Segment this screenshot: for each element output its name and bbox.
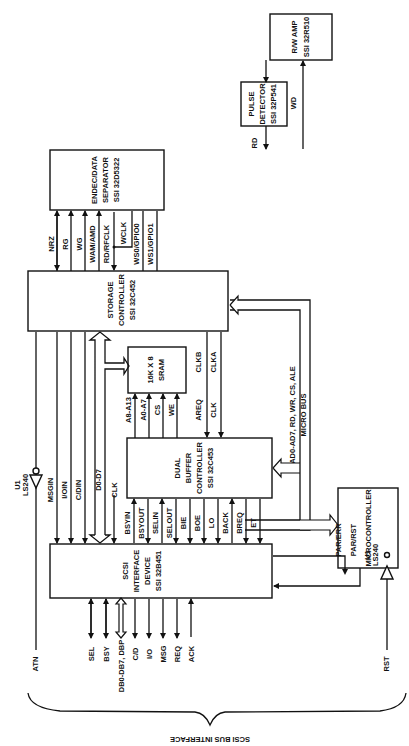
data-bus-arrow	[90, 332, 129, 535]
microbus-label-2: MICRO BUS	[299, 394, 308, 437]
scsi-bus-interface-label: SCSI BUS INTERFACE	[170, 735, 250, 744]
storage-scsi-lines: MSGIN I/OIN C/DIN D0-D7 CLK	[36, 332, 119, 545]
scsi-part: SSI 32B451	[154, 551, 163, 591]
endec-label: ENDEC/DATA	[90, 155, 99, 204]
cd-label: C/D	[131, 647, 140, 661]
ioin-label: I/OIN	[60, 481, 69, 499]
rg-label: RG	[61, 238, 70, 249]
atn-label: ATN	[31, 657, 40, 672]
pulse-label: PULSE	[247, 91, 256, 116]
ls240a-label: LS240	[21, 474, 30, 496]
sram-label: SRAM	[157, 359, 166, 381]
clkb-label: CLKB	[194, 351, 203, 372]
storage-part: SSI 32C452	[128, 280, 137, 320]
back-label: BACK	[221, 512, 230, 534]
areq-label: AREQ	[194, 399, 203, 421]
ls240b-label: LS240	[371, 544, 380, 566]
storage-buffer-lines: CLKB AREQ CLKA CLK	[194, 332, 221, 437]
wclk-label: WCLK	[119, 221, 128, 244]
scsi-bus-brace	[28, 693, 406, 725]
et-label: ET	[249, 518, 258, 528]
pulse-part: SSI 32P541	[269, 84, 278, 124]
a8a13-label: A8-A13	[124, 397, 133, 423]
pulse-detector-block: PULSE DETECTOR SSI 32P541	[241, 82, 287, 126]
clka-label: CLKA	[209, 351, 218, 372]
scsi-block-diagram: R/W AMP SSI 32R510 PULSE DETECTOR SSI 32…	[0, 0, 409, 746]
rdrf-label: RD/RFCLK	[102, 224, 111, 263]
lo-label: LO	[207, 518, 216, 529]
selin-label: SELIN	[151, 512, 160, 534]
msgin-label: MSGIN	[46, 478, 55, 503]
endec-part: SSI 32D5322	[112, 158, 121, 203]
selout-label: SELOUT	[165, 507, 174, 538]
clk2-label: CLK	[209, 402, 218, 418]
ws0-label: WS0/GPIO0	[132, 223, 141, 264]
storage-controller-block: STORAGE CONTROLLER SSI 32C452	[28, 271, 228, 331]
wg-label: WG	[75, 237, 84, 250]
storage-label: STORAGE	[106, 282, 115, 319]
sram-size: 16K X 8	[146, 356, 155, 383]
rw-amp-label: R/W AMP	[290, 20, 299, 53]
nrz-label: NRZ	[47, 236, 56, 252]
cdin-label: C/DIN	[74, 480, 83, 500]
controller-label-2: CONTROLLER	[195, 441, 204, 494]
bsyin-label: BSYIN	[123, 512, 132, 535]
ws1-label: WS1/GPIO1	[146, 223, 155, 264]
detector-label: DETECTOR	[258, 83, 267, 125]
io-label: I/O	[145, 649, 154, 659]
clk-label: CLK	[110, 482, 119, 498]
device-label: DEVICE	[143, 557, 152, 585]
endec-storage-signals: NRZ RG WG WAM/AMD RD/RFCLK WCLK WS0/GPIO…	[47, 211, 157, 272]
endec-block: ENDEC/DATA SEPARATOR SSI 32D5322	[50, 150, 164, 210]
microbus-label-1: AD0-AD7, RD, WR, CS, ALE	[288, 366, 297, 464]
rw-amp-block: R/W AMP SSI 32R510	[270, 14, 332, 60]
sel-label: SEL	[87, 646, 96, 661]
breq-label: BREQ	[235, 512, 244, 534]
rd-label: RD	[250, 137, 259, 148]
bsy-label: BSY	[102, 646, 111, 661]
msg-label: MSG	[159, 645, 168, 662]
boe-label: BOE	[193, 515, 202, 531]
bie-label: BIE	[179, 517, 188, 530]
dual-buffer-block: DUAL BUFFER CONTROLLER SSI 32C453	[127, 438, 272, 498]
atn-inverter: U1 LS240 ATN	[13, 468, 42, 671]
rst-label: RST	[382, 656, 391, 671]
d0d7-label: D0-D7	[94, 469, 103, 491]
scsi-label: SCSI	[121, 562, 130, 580]
scsi-bus-lines: SEL BSY DB0-DB7, DBP C/D I/O MSG REQ ACK	[87, 598, 196, 692]
a0a7-label: A0-A7	[139, 399, 148, 421]
separator-label: SEPARATOR	[101, 156, 110, 202]
bsyout-label: BSYOUT	[137, 507, 146, 539]
req-label: REQ	[173, 646, 182, 662]
dual-label: DUAL	[173, 457, 182, 478]
buffer-scsi-lines: BSYIN BSYOUT SELIN SELOUT BIE BOE LO BAC…	[123, 499, 260, 543]
micro-bus-arrow	[300, 515, 338, 535]
scsi-device-block: SCSI INTERFACE DEVICE SSI 32B451	[50, 544, 272, 598]
wam-label: WAM/AMD	[88, 225, 97, 263]
we-label: WE	[167, 404, 176, 416]
rw-amp-part: SSI 32R510	[302, 17, 311, 57]
ack-label: ACK	[187, 645, 196, 662]
parerr-label: PAR/ERR	[334, 523, 343, 557]
wd-label: WD	[289, 96, 298, 109]
parrst-label: PAR/RST	[349, 523, 358, 556]
buffer-label: BUFFER	[184, 452, 193, 483]
sram-block: 16K X 8 SRAM	[128, 347, 186, 393]
db-label: DB0-DB7, DBP	[117, 640, 126, 693]
controller-label: CONTROLLER	[117, 273, 126, 326]
dual-buffer-part: SSI 32C453	[206, 448, 215, 488]
cs-label: CS	[153, 405, 162, 415]
sram-address-lines: A8-A13 A0-A7 CS WE	[124, 394, 177, 438]
interface-label: INTERFACE	[132, 550, 141, 593]
